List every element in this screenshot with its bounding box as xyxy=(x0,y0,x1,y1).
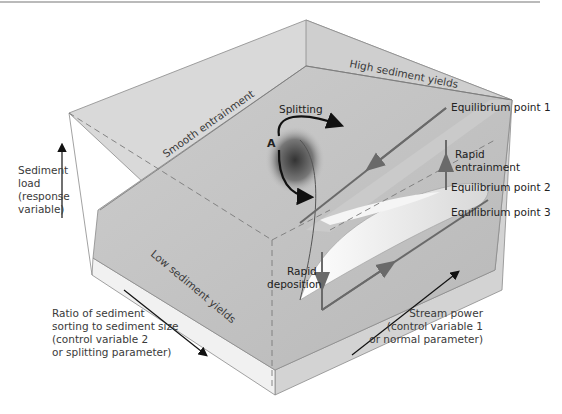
rapid-entrainment-label-1: Rapid xyxy=(455,148,485,160)
svg-text:Sediment: Sediment xyxy=(18,164,68,176)
equilibrium-point-2: Equilibrium point 2 xyxy=(451,181,551,193)
equilibrium-point-3: Equilibrium point 3 xyxy=(451,206,551,218)
svg-text:variable): variable) xyxy=(18,203,64,215)
svg-text:(control variable 2: (control variable 2 xyxy=(52,333,148,345)
svg-text:Ratio of sediment: Ratio of sediment xyxy=(52,307,145,319)
rapid-deposition-label-2: deposition xyxy=(267,278,322,290)
svg-text:Stream power: Stream power xyxy=(409,307,483,319)
svg-text:(response: (response xyxy=(18,190,70,202)
y-axis-label: Sediment load (response variable) xyxy=(18,164,70,215)
splitting-label: Splitting xyxy=(279,103,323,115)
rapid-entrainment-label-2: entrainment xyxy=(455,161,520,173)
svg-text:or normal parameter): or normal parameter) xyxy=(369,333,483,345)
rapid-deposition-label-1: Rapid xyxy=(287,265,317,277)
svg-text:load: load xyxy=(18,177,40,189)
svg-text:sorting to sediment size: sorting to sediment size xyxy=(52,320,178,332)
point-a-label: A xyxy=(267,137,276,150)
equilibrium-point-1: Equilibrium point 1 xyxy=(451,101,551,113)
svg-text:or splitting parameter): or splitting parameter) xyxy=(52,346,171,358)
svg-text:(control variable 1: (control variable 1 xyxy=(387,320,483,332)
cusp-catastrophe-diagram: Smooth entrainment High sediment yields … xyxy=(0,0,562,414)
